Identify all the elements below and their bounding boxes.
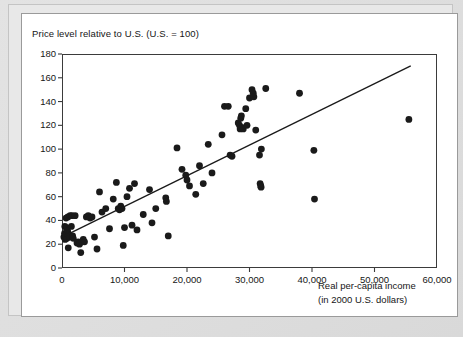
scatter-point [110, 196, 117, 203]
scatter-point [129, 222, 136, 229]
chart-canvas [22, 14, 459, 318]
scatter-point [94, 246, 101, 253]
y-tick-label: 180 [22, 48, 56, 59]
scatter-point [149, 219, 156, 226]
scatter-point [163, 198, 170, 205]
scatter-point [258, 184, 265, 191]
scatter-point [68, 223, 75, 230]
trendline-segment [62, 66, 411, 237]
y-tick-label: 20 [22, 238, 56, 249]
scatter-point [165, 233, 172, 240]
scatter-point [102, 205, 109, 212]
scatter-point [140, 211, 147, 218]
scatter-point [96, 189, 103, 196]
scatter-point [225, 103, 232, 110]
figure-card: Price level relative to U.S. (U.S. = 100… [21, 13, 458, 317]
y-tick-label: 40 [22, 214, 56, 225]
scatter-point [72, 212, 79, 219]
scatter-point [256, 152, 263, 159]
x-axis-label-line1: Real per-capita income [318, 280, 416, 291]
x-tick-label: 20,000 [157, 274, 217, 285]
scatter-point [77, 249, 84, 256]
scatter-point [91, 234, 98, 241]
scatter-point [250, 93, 257, 100]
x-tick-label: 30,000 [220, 274, 280, 285]
scatter-point [124, 193, 131, 200]
scatter-point [252, 127, 259, 134]
scatter-point [219, 131, 226, 138]
scatter-point [174, 145, 181, 152]
scatter-point [242, 105, 249, 112]
y-tick-label: 160 [22, 72, 56, 83]
scatter-point [205, 141, 212, 148]
tick-marks [58, 54, 375, 272]
x-tick-label: 0 [32, 274, 92, 285]
y-tick-label: 0 [22, 262, 56, 273]
scatter-point [89, 213, 96, 220]
scatter-point [152, 205, 159, 212]
scatter-point [179, 166, 186, 173]
scatter-point [186, 183, 193, 190]
scatter-point [244, 122, 251, 129]
y-tick-label: 80 [22, 167, 56, 178]
y-tick-label: 140 [22, 96, 56, 107]
scatter-point [146, 186, 153, 193]
x-tick-label: 10,000 [95, 274, 155, 285]
scatter-point [121, 224, 128, 231]
scatter-point [405, 116, 412, 123]
scatter-point [184, 177, 191, 184]
scatter-point [65, 244, 72, 251]
page-background: Price level relative to U.S. (U.S. = 100… [0, 0, 463, 337]
scatter-point [310, 147, 317, 154]
scatter-point [131, 180, 138, 187]
y-tick-label: 100 [22, 143, 56, 154]
scatter-point [192, 191, 199, 198]
scatter-point [209, 169, 216, 176]
scatter-point [262, 85, 269, 92]
scatter-point [120, 242, 127, 249]
scatter-point [296, 90, 303, 97]
trendline [62, 66, 411, 237]
scatter-point [238, 112, 245, 119]
scatter-point [311, 196, 318, 203]
y-tick-label: 120 [22, 119, 56, 130]
scatter-point [81, 238, 88, 245]
scatter-point [126, 185, 133, 192]
scatter-point [134, 227, 141, 234]
scatter-points [60, 85, 412, 256]
y-tick-label: 60 [22, 191, 56, 202]
x-axis-label-line2: (in 2000 U.S. dollars) [318, 294, 407, 305]
scatter-point [106, 225, 113, 232]
scatter-point [258, 146, 265, 153]
scatter-point [200, 180, 207, 187]
scatter-point [113, 179, 120, 186]
figure-outer-frame: Price level relative to U.S. (U.S. = 100… [8, 4, 453, 316]
